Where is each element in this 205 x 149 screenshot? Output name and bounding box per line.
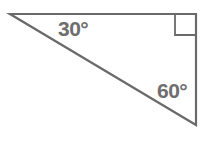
triangle-outline bbox=[10, 14, 196, 125]
right-angle-marker bbox=[175, 14, 196, 35]
triangle-diagram: 30° 60° bbox=[0, 0, 205, 149]
triangle-svg bbox=[0, 0, 205, 149]
angle-label-30: 30° bbox=[58, 18, 88, 39]
angle-label-60: 60° bbox=[157, 80, 187, 101]
